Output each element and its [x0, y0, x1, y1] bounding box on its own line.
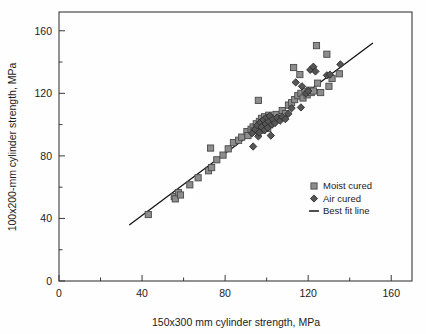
- data-point-air: [249, 143, 256, 150]
- data-point-moist: [195, 175, 201, 181]
- legend-label-text: Moist cured: [323, 180, 372, 191]
- x-tick-label: 120: [299, 287, 317, 299]
- x-axis-title: 150x300 mm cylinder strength, MPa: [152, 316, 320, 328]
- legend-label-text: Air cured: [323, 193, 361, 204]
- x-tick-label: 160: [382, 287, 400, 299]
- series-air-cured: [248, 61, 344, 150]
- data-point-air: [297, 104, 304, 111]
- y-tick-label: 0: [46, 275, 52, 287]
- x-tick-label: 0: [56, 287, 62, 299]
- legend-marker-diamond: [310, 195, 317, 202]
- y-tick-label: 120: [34, 87, 52, 99]
- data-point-moist: [220, 152, 226, 158]
- y-tick-label: 40: [40, 212, 52, 224]
- y-tick-labels: 04080120160: [34, 25, 52, 287]
- data-point-moist: [209, 165, 215, 171]
- chart-legend: Moist curedAir curedBest fit line: [310, 180, 373, 216]
- y-tick-label: 80: [40, 150, 52, 162]
- x-tick-labels: 04080120160: [56, 287, 400, 299]
- data-point-moist: [326, 83, 332, 89]
- data-point-moist: [324, 51, 330, 57]
- data-point-air: [337, 61, 344, 68]
- data-point-moist: [336, 71, 342, 77]
- figure-container: 04080120160 04080120160 Moist curedAir c…: [0, 0, 426, 334]
- data-point-moist: [255, 97, 261, 103]
- plot-border: [59, 12, 412, 281]
- data-point-moist: [313, 43, 319, 49]
- data-point-moist: [187, 182, 193, 188]
- data-point-moist: [214, 157, 220, 163]
- data-point-moist: [145, 211, 151, 217]
- y-tick-label: 160: [34, 25, 52, 37]
- data-point-moist: [225, 146, 231, 152]
- data-point-air: [292, 79, 299, 86]
- data-point-moist: [318, 89, 324, 95]
- x-tick-label: 80: [219, 287, 231, 299]
- data-point-moist: [291, 64, 297, 70]
- data-point-moist: [314, 80, 320, 86]
- scatter-chart: 04080120160 04080120160 Moist curedAir c…: [0, 0, 426, 334]
- data-point-moist: [177, 192, 183, 198]
- legend-label-text: Best fit line: [323, 205, 369, 216]
- x-tick-label: 40: [136, 287, 148, 299]
- data-point-air: [267, 132, 274, 139]
- plot-frame: [59, 12, 412, 281]
- legend-marker-square: [311, 183, 317, 189]
- data-point-moist: [207, 145, 213, 151]
- data-point-moist: [297, 71, 303, 77]
- y-axis-title: 100x200-mm cylinder strength, MPa: [6, 63, 18, 232]
